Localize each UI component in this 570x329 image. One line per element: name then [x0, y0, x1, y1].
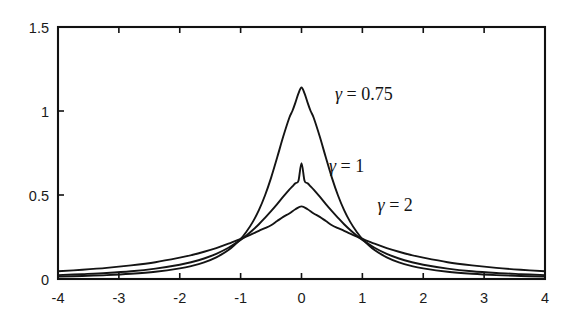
x-tick-label: 2: [419, 290, 427, 306]
annotation-gamma-1: γ = 1: [329, 156, 364, 176]
y-tick-label: 0: [41, 272, 49, 288]
annotation-gamma-0-75: γ = 0.75: [335, 84, 393, 104]
x-tick-label: 3: [480, 290, 488, 306]
density-plot-figure: -4-3-2-101234 00.511.5 γ = 0.75 γ = 1 γ …: [0, 0, 570, 329]
x-tick-label: 1: [358, 290, 366, 306]
x-tick-label: 0: [297, 290, 305, 306]
annotation-gamma-2: γ = 2: [378, 195, 413, 215]
y-tick-label: 1: [41, 104, 49, 120]
x-tick-label: -2: [173, 290, 186, 306]
x-tick-label: -1: [234, 290, 247, 306]
x-tick-label: -3: [112, 290, 125, 306]
x-tick-label: 4: [541, 290, 549, 306]
y-tick-label: 0.5: [29, 188, 49, 204]
x-tick-label: -4: [52, 290, 65, 306]
y-tick-label: 1.5: [29, 20, 49, 36]
